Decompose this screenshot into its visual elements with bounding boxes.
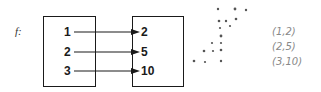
arrow-1-to-2: [74, 29, 140, 35]
arrow-2-to-5: [74, 49, 140, 55]
ordered-pair-1: (1,2): [272, 24, 302, 39]
ordered-pairs-list: (1,2) (2,5) (3,10): [272, 24, 302, 69]
scatter-dots: [190, 0, 260, 70]
arrow-3-to-10: [74, 68, 140, 74]
ordered-pair-3: (3,10): [272, 54, 302, 69]
ordered-pair-2: (2,5): [272, 39, 302, 54]
